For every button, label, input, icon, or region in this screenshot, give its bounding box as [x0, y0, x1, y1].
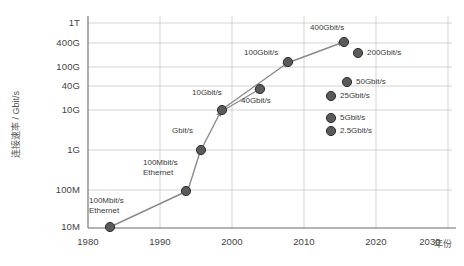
y-tick-400g: 400G [40, 37, 80, 48]
annotation-40gbit: 40Gbit/s [241, 96, 271, 106]
annotation-gbit: Gbit/s [172, 126, 193, 136]
annotation-10mbit-ethernet-line1: 100Mbit/s [89, 196, 124, 206]
y-tick-10m: 10M [40, 221, 80, 232]
annotation-2-5gbit: 2.5Gbit/s [340, 126, 372, 136]
annotation-10gbit: 10Gbit/s [192, 88, 222, 98]
x-gridlines [160, 16, 448, 228]
annotation-100mbit-ethernet-line1: 100Mbit/s [143, 158, 178, 168]
annotation-10mbit-ethernet-line2: Ethernet [89, 206, 119, 216]
x-tick-2020: 2020 [356, 236, 396, 247]
y-tick-10g: 10G [40, 104, 80, 115]
y-tick-1t: 1T [40, 17, 80, 28]
series-markers [105, 37, 348, 231]
y-tick-1g: 1G [40, 144, 80, 155]
chart-container: 1T 400G 100G 40G 10G 1G 100M 10M 1980 19… [0, 0, 464, 266]
x-tick-2000: 2000 [212, 236, 252, 247]
series-line [110, 43, 341, 227]
y-tick-40g: 40G [40, 80, 80, 91]
x-tick-1980: 1980 [68, 236, 108, 247]
annotation-100mbit-ethernet-line2: Ethernet [143, 168, 173, 178]
y-tick-100g: 100G [40, 61, 80, 72]
annotation-50gbit: 50Gbit/s [356, 77, 386, 87]
annotation-100gbit: 100Gbit/s [244, 48, 278, 58]
annotation-5gbit: 5Gbit/s [340, 113, 365, 123]
y-axis-title: 连接速率 / Gbit/s [9, 77, 22, 173]
x-tick-2010: 2010 [284, 236, 324, 247]
annotation-400gbit: 400Gbit/s [310, 23, 344, 33]
x-tick-1990: 1990 [140, 236, 180, 247]
annotation-200gbit: 200Gbit/s [367, 48, 401, 58]
annotation-25gbit: 25Gbit/s [340, 91, 370, 101]
x-axis-title: 年份 [434, 237, 452, 250]
y-tick-100m: 100M [40, 184, 80, 195]
